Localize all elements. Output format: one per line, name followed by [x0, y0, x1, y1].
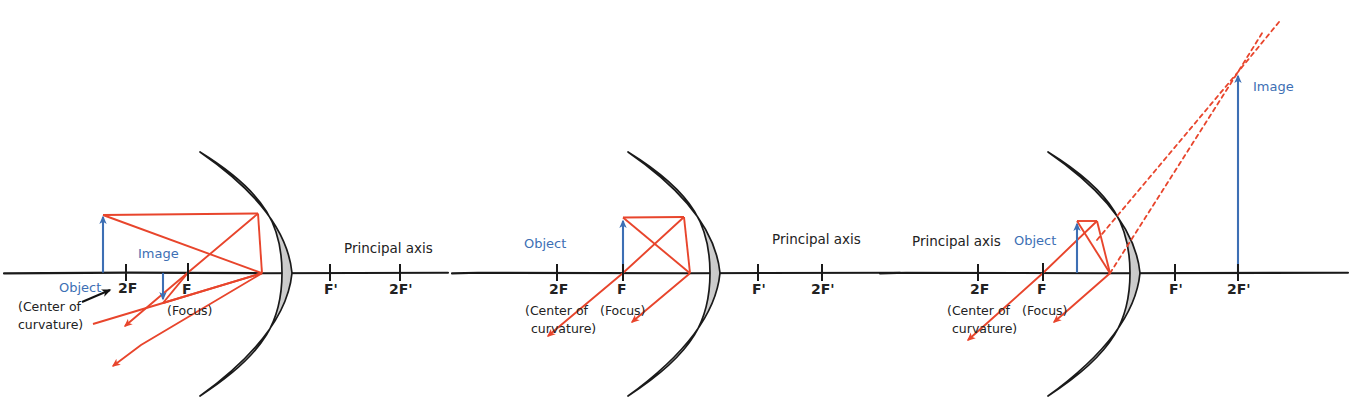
center-of-curvature-line1: (Center of [947, 303, 1011, 318]
center-of-curvature-line2: curvature) [952, 321, 1017, 336]
virtual-ray-extension-1 [1110, 30, 1264, 273]
principal-axis-line [880, 273, 1348, 274]
principal-axis-label: Principal axis [912, 233, 1001, 249]
label-2f: 2F [970, 281, 989, 297]
mirror-edge-ray-link [684, 217, 690, 273]
focus-label: (Focus) [1022, 303, 1067, 318]
incident-ray-to-pole [1077, 221, 1110, 273]
incident-ray-parallel [623, 217, 684, 218]
label-f: F [1037, 281, 1047, 297]
object-label: Object [524, 236, 566, 251]
focus-label: (Focus) [600, 303, 645, 318]
ray-diagram-svg: Object Image 2F F (Focus) (Center of cur… [0, 0, 1352, 410]
mirror-edge-ray-link [1097, 221, 1110, 273]
label-2f-prime: 2F' [1227, 281, 1251, 297]
label-f-prime: F' [1169, 281, 1183, 297]
center-of-curvature-line1: (Center of [525, 303, 589, 318]
object-label: Object [59, 280, 101, 295]
principal-axis-line [4, 273, 448, 274]
principal-axis-label: Principal axis [772, 231, 861, 247]
label-f: F [182, 281, 192, 297]
label-2f-prime: 2F' [811, 281, 835, 297]
principal-axis-line [452, 273, 900, 274]
label-2f-prime: 2F' [389, 281, 413, 297]
center-of-curvature-line2: curvature) [531, 321, 596, 336]
diagram-object-between-f-and-mirror: Object Image 2F F (Focus) (Center of cur… [880, 22, 1348, 396]
label-f: F [617, 281, 627, 297]
label-f-prime: F' [324, 281, 338, 297]
label-f-prime: F' [752, 281, 766, 297]
diagram-object-at-f: Object 2F F (Focus) (Center of curvature… [452, 152, 900, 396]
label-2f: 2F [118, 280, 137, 296]
focus-label: (Focus) [167, 303, 212, 318]
figure-canvas: Object Image 2F F (Focus) (Center of cur… [0, 0, 1352, 410]
object-label: Object [1014, 233, 1056, 248]
principal-axis-label: Principal axis [344, 240, 433, 256]
diagram-object-beyond-2f: Object Image 2F F (Focus) (Center of cur… [4, 152, 448, 396]
mirror-edge-ray-link [258, 214, 262, 274]
label-2f: 2F [549, 281, 568, 297]
center-of-curvature-line1: (Center of [18, 299, 82, 314]
reflected-ray-divergent-left [548, 217, 684, 336]
incident-ray-parallel [103, 214, 258, 216]
virtual-ray-extension-2 [1097, 22, 1279, 240]
center-of-curvature-line2: curvature) [18, 317, 83, 332]
ray-image-to-pole [163, 273, 262, 303]
image-label: Image [138, 246, 179, 261]
image-label: Image [1253, 79, 1294, 94]
